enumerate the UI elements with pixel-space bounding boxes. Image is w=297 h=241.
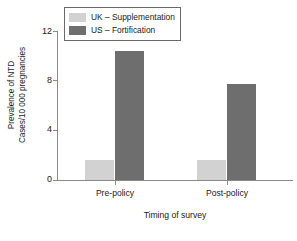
bar-uk-post-policy <box>197 160 226 180</box>
x-axis-label: Timing of survey <box>57 210 293 220</box>
x-axis-line <box>57 180 293 181</box>
legend-item-uk-supplementation: UK – Supplementation <box>69 11 175 24</box>
legend-label-uk: UK – Supplementation <box>91 13 175 22</box>
bar-us-post-policy <box>227 84 256 180</box>
plot-area <box>58 31 293 180</box>
y-axis-label-line1: Prevalence of NTD <box>7 47 18 143</box>
y-tick-label-12: 12 <box>30 27 52 36</box>
y-axis-label: Prevalence of NTD Cases/10 000 pregnanci… <box>0 0 34 190</box>
legend-item-us-fortification: US – Fortification <box>69 24 175 37</box>
x-tick-label-post-policy: Post-policy <box>182 188 272 198</box>
x-tick-label-pre-policy: Pre-policy <box>70 188 160 198</box>
legend-swatch-uk-icon <box>69 13 86 22</box>
x-tick-mark-post-policy <box>227 181 228 185</box>
y-tick-label-0: 0 <box>30 175 52 184</box>
x-tick-mark-pre-policy <box>115 181 116 185</box>
legend-label-us: US – Fortification <box>91 26 155 35</box>
y-axis-label-line2: Cases/10 000 pregnancies <box>17 47 28 143</box>
chart-figure: Prevalence of NTD Cases/10 000 pregnanci… <box>0 0 297 241</box>
y-tick-label-4: 4 <box>30 125 52 134</box>
y-tick-label-8: 8 <box>30 76 52 85</box>
bar-uk-pre-policy <box>85 160 114 180</box>
legend-swatch-us-icon <box>69 26 86 35</box>
chart-legend: UK – Supplementation US – Fortification <box>64 7 181 41</box>
bar-us-pre-policy <box>115 51 144 180</box>
